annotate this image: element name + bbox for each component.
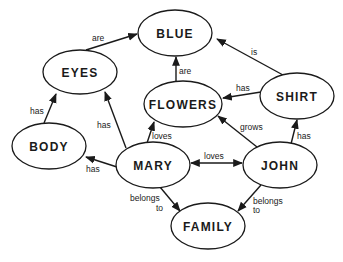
- edge-label-flowers-blue: are: [179, 66, 192, 76]
- edge-label-mary-body: has: [86, 164, 100, 174]
- concept-map-canvas: are are is has has has loves has loves g…: [0, 0, 343, 262]
- edge-label-eyes-blue: are: [92, 33, 105, 43]
- edge-label-mary-flowers: loves: [152, 131, 172, 141]
- edge-label-mary-eyes: has: [97, 120, 111, 130]
- node-john-label: JOHN: [261, 159, 299, 173]
- node-blue-label: BLUE: [156, 27, 193, 41]
- node-family-label: FAMILY: [183, 220, 233, 234]
- edge-shirt-is-blue: [217, 39, 283, 75]
- node-body-label: BODY: [29, 140, 68, 154]
- edge-body-has-eyes: [44, 94, 56, 123]
- edge-label-shirt-flowers: has: [236, 83, 250, 93]
- node-body[interactable]: BODY: [12, 123, 86, 169]
- node-mary[interactable]: MARY: [116, 142, 190, 188]
- edge-label-john-flowers: grows: [240, 122, 263, 132]
- edge-label-john-shirt: has: [297, 131, 311, 141]
- nodes: BLUE EYES FLOWERS SHIRT BODY MARY JOHN: [12, 10, 334, 249]
- node-john[interactable]: JOHN: [243, 142, 317, 188]
- edge-label-body-eyes: has: [30, 106, 44, 116]
- node-shirt[interactable]: SHIRT: [260, 73, 334, 119]
- edge-label-john-family-2: to: [253, 205, 260, 215]
- edge-label-shirt-blue: is: [251, 47, 257, 57]
- edge-label-mary-john: loves: [204, 151, 224, 161]
- node-blue[interactable]: BLUE: [138, 10, 212, 56]
- node-family[interactable]: FAMILY: [171, 203, 245, 249]
- node-eyes[interactable]: EYES: [43, 50, 117, 94]
- node-eyes-label: EYES: [62, 66, 99, 80]
- node-mary-label: MARY: [133, 159, 173, 173]
- node-flowers-label: FLOWERS: [149, 98, 217, 112]
- node-flowers[interactable]: FLOWERS: [144, 81, 222, 127]
- edge-label-mary-family-1: belongs: [130, 193, 160, 203]
- node-shirt-label: SHIRT: [276, 90, 318, 104]
- edge-label-mary-family-2: to: [156, 203, 163, 213]
